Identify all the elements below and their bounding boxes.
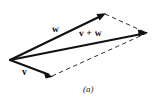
vector-v-shaft xyxy=(10,60,49,75)
vector-v-plus-w-arrowhead xyxy=(138,30,148,37)
vector-v-arrowhead xyxy=(44,72,54,79)
vector-diagram-canvas xyxy=(0,0,158,101)
vector-v-plus-w-shaft xyxy=(10,34,143,60)
vector-addition-figure: w v v + w (a) xyxy=(0,0,158,101)
dashed-line-v-to-sum xyxy=(52,33,147,76)
vector-label-v-plus-w: v + w xyxy=(79,29,102,39)
vector-label-v: v xyxy=(22,68,27,78)
vector-v xyxy=(10,60,53,78)
vector-w-arrowhead xyxy=(97,13,107,20)
vector-label-w: w xyxy=(52,25,59,35)
dashed-line-w-to-sum xyxy=(105,14,147,33)
figure-caption: (a) xyxy=(83,85,94,94)
